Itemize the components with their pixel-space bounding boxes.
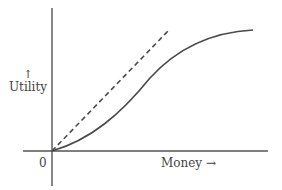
up-arrow-icon: ↑	[8, 69, 48, 80]
utility-curve	[52, 30, 253, 151]
x-axis-label: Money →	[161, 157, 216, 169]
origin-label: 0	[39, 157, 47, 169]
y-axis-label-text: Utility	[9, 80, 47, 94]
chart-canvas: ↑ Utility 0 Money →	[0, 0, 282, 190]
linear-reference-line	[52, 30, 169, 151]
y-axis-label: ↑ Utility	[8, 69, 48, 93]
